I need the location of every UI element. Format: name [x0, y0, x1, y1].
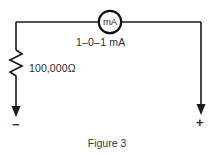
resistor-symbol: [10, 50, 22, 78]
figure-caption: Figure 3: [0, 138, 214, 149]
positive-terminal-label: +: [196, 116, 204, 129]
resistor-value-label: 100,000Ω: [29, 63, 76, 74]
meter-range-label: 1–0–1 mA: [76, 37, 125, 48]
figure-container: mA 1–0–1 mA 100,000Ω − + Figure 3: [0, 0, 214, 156]
negative-terminal-label: −: [12, 118, 20, 131]
meter-symbol-label: mA: [103, 16, 118, 27]
negative-terminal-arrow-icon: [12, 106, 21, 117]
circuit-diagram: mA: [0, 0, 214, 156]
positive-terminal-arrow-icon: [197, 104, 206, 115]
